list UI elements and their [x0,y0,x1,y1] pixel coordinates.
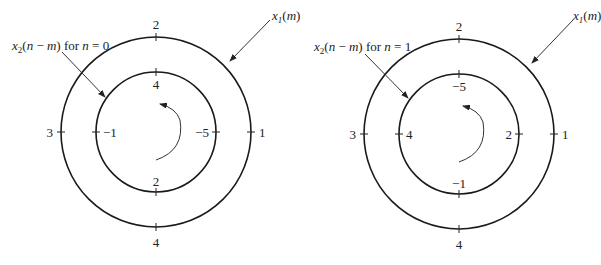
inner-left-value: 4 [406,127,413,142]
inner-bottom-value: −1 [452,176,466,191]
inner-top-value: −5 [452,79,466,94]
outer-right-value: 1 [562,127,569,142]
inner-right-value: 2 [506,127,513,142]
outer-circle [364,39,554,229]
outer-signal-label: x1(m) [271,8,300,25]
outer-bottom-value: 4 [456,237,463,252]
diagram-n0: 2 4 3 1 4 2 −1 −5 x1(m) x2(n − m) for n … [11,8,300,250]
rotation-arrow-icon [156,104,181,160]
outer-label-arrow [230,20,270,61]
outer-top-value: 2 [153,17,160,32]
inner-left-value: −1 [103,125,117,140]
outer-top-value: 2 [456,19,463,34]
outer-left-value: 3 [47,125,54,140]
inner-right-value: −5 [195,125,209,140]
ticks [360,35,558,233]
outer-signal-label: x1(m) [572,8,601,25]
outer-left-value: 3 [350,127,357,142]
inner-top-value: 4 [153,77,160,92]
circular-convolution-diagram: 2 4 3 1 4 2 −1 −5 x1(m) x2(n − m) for n … [0,0,601,265]
diagram-n1: 2 4 3 1 −5 −1 4 2 x1(m) x2(n − m) for n … [313,8,601,252]
inner-label-arrow [365,54,408,98]
outer-label-arrow [532,20,573,63]
outer-circle [61,37,251,227]
inner-label-arrow [62,52,105,97]
inner-signal-label: x2(n − m) for n = 0 [11,38,109,55]
ticks [57,33,255,231]
outer-bottom-value: 4 [153,235,160,250]
inner-signal-label: x2(n − m) for n = 1 [313,39,411,56]
outer-right-value: 1 [259,125,266,140]
inner-bottom-value: 2 [153,174,160,189]
rotation-arrow-icon [459,106,484,162]
